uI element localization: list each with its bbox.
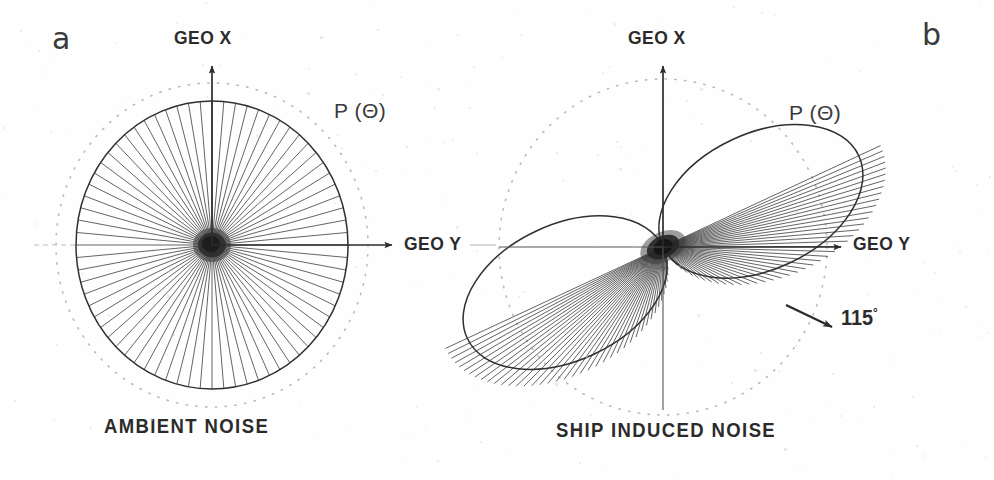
curve-label-b: P (Θ)	[789, 102, 841, 123]
angle-label-115: 115°	[841, 306, 878, 329]
axis-x-label-b: GEO X	[628, 28, 686, 47]
axis-y-label-b: GEO Y	[853, 234, 910, 253]
figure-canvas: a GEO X GEO Y P (Θ) AMBIENT NOISE b GEO …	[0, 0, 994, 480]
panel-letter-a: a	[52, 24, 70, 54]
axis-y-label-a: GEO Y	[404, 234, 461, 253]
degree-sign: °	[873, 305, 878, 320]
caption-ship-induced-noise: SHIP INDUCED NOISE	[556, 419, 776, 440]
caption-ambient-noise: AMBIENT NOISE	[104, 415, 269, 436]
angle-value: 115	[841, 305, 873, 330]
panel-letter-b: b	[922, 20, 941, 50]
curve-label-a: P (Θ)	[334, 100, 386, 121]
polar-plot-graphics	[0, 0, 994, 480]
axis-x-label-a: GEO X	[174, 28, 232, 47]
